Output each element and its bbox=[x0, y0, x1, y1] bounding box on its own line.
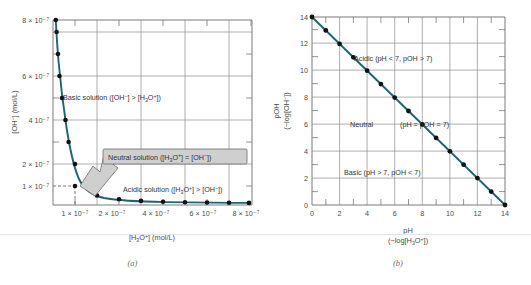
panel-b-neutral-label-left: Neutral bbox=[350, 120, 374, 129]
panel-a-minor-ticks bbox=[53, 20, 252, 205]
panel-a-plot: 8 × 10⁻⁷ 6 × 10⁻⁷ 4 10⁻⁷ 2 × 10⁻⁷ 1 × 10… bbox=[0, 0, 265, 258]
y-ticklabel-14: 14 bbox=[300, 13, 308, 22]
y-ticklabel-4e-7: 4 10⁻⁷ bbox=[28, 116, 49, 125]
panel-b-acidic-label: Acidic (pH < 7, pOH > 7) bbox=[354, 54, 432, 63]
x-ticklabel-4: 4 bbox=[365, 209, 369, 218]
panel-a-acidic-solution-label: Acidic solution ([H3O+] > [OH−]) bbox=[123, 185, 222, 196]
panel-b-x-axis-subtitle: (−log[H3O+]) bbox=[388, 236, 428, 247]
panel-b-caption: (b) bbox=[265, 258, 531, 268]
x-ticklabel-10: 10 bbox=[446, 209, 454, 218]
panel-a-neutral-guides bbox=[53, 186, 75, 205]
y-ticklabel-8: 8 bbox=[304, 93, 308, 102]
y-ticklabel-0: 0 bbox=[304, 201, 308, 210]
y-ticklabel-6e-7: 6 × 10⁻⁷ bbox=[22, 72, 49, 81]
x-ticklabel-2: 2 bbox=[338, 209, 342, 218]
x-ticklabel-12: 12 bbox=[473, 209, 481, 218]
panel-b-neutral-label-right: (pH = pOH = 7) bbox=[400, 120, 449, 129]
panel-a-neutral-callout-label: Neutral solution ([H3O+] = [OH−]) bbox=[108, 152, 211, 163]
y-ticklabel-1e-7: 1 × 10⁻⁷ bbox=[22, 182, 49, 191]
figure-root: 8 × 10⁻⁷ 6 × 10⁻⁷ 4 10⁻⁷ 2 × 10⁻⁷ 1 × 10… bbox=[0, 0, 531, 285]
y-ticklabel-6: 6 bbox=[304, 120, 308, 129]
panel-b-plot: 14 12 10 8 6 4 2 0 0 2 4 6 8 10 12 14 bbox=[265, 0, 531, 258]
panel-b-y-axis-title: pOH bbox=[272, 103, 281, 118]
panel-b-y-ticklabels: 14 12 10 8 6 4 2 0 bbox=[300, 13, 308, 210]
y-ticklabel-4: 4 bbox=[304, 147, 308, 156]
y-ticklabel-8e-7: 8 × 10⁻⁷ bbox=[22, 16, 49, 25]
panel-b-basic-label: Basic (pH > 7, pOH < 7) bbox=[344, 168, 421, 177]
x-ticklabel-14: 14 bbox=[501, 209, 509, 218]
panel-a-basic-solution-label: Basic solution ([OH−] > [H3O+]) bbox=[63, 93, 161, 104]
x-ticklabel-0: 0 bbox=[310, 209, 314, 218]
y-ticklabel-12: 12 bbox=[300, 39, 308, 48]
x-ticklabel-6: 6 bbox=[393, 209, 397, 218]
panel-a-curve bbox=[56, 20, 249, 203]
panel-a-frame bbox=[53, 20, 252, 205]
panel-b: 14 12 10 8 6 4 2 0 0 2 4 6 8 10 12 14 bbox=[265, 0, 531, 285]
x-ticklabel-2e-7: 2 × 10⁻⁷ bbox=[99, 209, 126, 218]
panel-a: 8 × 10⁻⁷ 6 × 10⁻⁷ 4 10⁻⁷ 2 × 10⁻⁷ 1 × 10… bbox=[0, 0, 265, 285]
x-ticklabel-8: 8 bbox=[420, 209, 424, 218]
x-ticklabel-4e-7: 4 × 10⁻⁷ bbox=[143, 209, 170, 218]
panel-a-y-axis-title: [OH−] (mol/L) bbox=[10, 90, 20, 133]
x-ticklabel-6e-7: 6 × 10⁻⁷ bbox=[190, 209, 217, 218]
panel-a-gridlines bbox=[53, 20, 252, 205]
panel-a-x-ticklabels: 1 × 10⁻⁷ 2 × 10⁻⁷ 4 × 10⁻⁷ 6 × 10⁻⁷ 8 × … bbox=[62, 209, 260, 218]
panel-a-data-points bbox=[54, 18, 252, 206]
y-ticklabel-2: 2 bbox=[304, 174, 308, 183]
y-ticklabel-10: 10 bbox=[300, 66, 308, 75]
panel-b-x-ticklabels: 0 2 4 6 8 10 12 14 bbox=[310, 209, 509, 218]
y-ticklabel-2e-7: 2 × 10⁻⁷ bbox=[22, 160, 49, 169]
panel-a-caption: (a) bbox=[0, 258, 265, 268]
panel-a-y-ticklabels: 8 × 10⁻⁷ 6 × 10⁻⁷ 4 10⁻⁷ 2 × 10⁻⁷ 1 × 10… bbox=[22, 16, 49, 191]
x-ticklabel-1e-7: 1 × 10⁻⁷ bbox=[62, 209, 89, 218]
x-ticklabel-8e-7: 8 × 10⁻⁷ bbox=[233, 209, 260, 218]
panel-b-y-axis-subtitle: (−log[OH−]) bbox=[282, 92, 292, 129]
page-rule bbox=[0, 234, 531, 235]
